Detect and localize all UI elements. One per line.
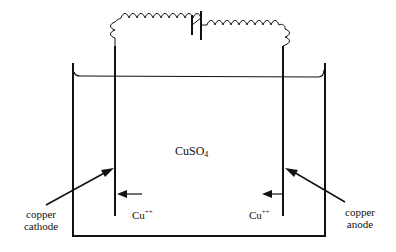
- ion-right-base: Cu: [249, 209, 262, 221]
- cathode-label: copper cathode: [16, 208, 66, 232]
- electrolyte-surface: [74, 70, 324, 77]
- ion-label-left: Cu++: [132, 206, 153, 221]
- ion-label-right: Cu++: [249, 206, 270, 221]
- coiled-wire-right: [201, 21, 290, 47]
- solution-subscript: 4: [204, 150, 208, 159]
- anode-label-line2: anode: [335, 218, 385, 230]
- anode-label-line1: copper: [335, 206, 385, 218]
- cathode-label-line2: cathode: [16, 220, 66, 232]
- ion-right-charge: ++: [262, 208, 270, 216]
- cu-left-arrowhead: [117, 190, 127, 198]
- ion-left-base: Cu: [132, 209, 145, 221]
- cu-right-arrowhead: [262, 190, 272, 198]
- cathode-arrowhead: [101, 168, 114, 177]
- coiled-wire-left: [111, 14, 202, 47]
- ion-left-charge: ++: [145, 208, 153, 216]
- solution-label: CuSO4: [175, 145, 208, 161]
- anode-arrowhead: [285, 168, 298, 177]
- cathode-label-line1: copper: [16, 208, 66, 220]
- solution-formula: CuSO: [175, 144, 204, 158]
- anode-label: copper anode: [335, 206, 385, 230]
